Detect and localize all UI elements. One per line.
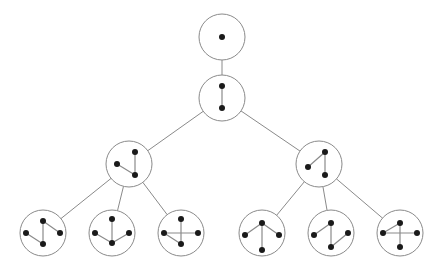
graph-vertex [114, 161, 120, 167]
graph-vertex [109, 240, 115, 246]
tree-edge-n4-n10 [337, 179, 383, 218]
tree-node-n3 [106, 141, 152, 187]
graph-vertex [219, 34, 225, 40]
tree-edge-n4-n8 [277, 182, 305, 216]
tree-edge-n2-n3 [148, 111, 203, 150]
graph-vertex [195, 230, 201, 236]
tree-node-n10 [377, 210, 423, 256]
graph-vertex [380, 230, 386, 236]
tree-node-n1 [199, 14, 245, 60]
graph-vertex [132, 149, 138, 155]
graph-vertex [126, 230, 132, 236]
graph-vertex [178, 216, 184, 222]
tree-node-n7 [158, 210, 204, 256]
tree-node-n4 [296, 141, 342, 187]
graph-vertex [92, 230, 98, 236]
graph-vertex [322, 149, 328, 155]
graph-vertex [276, 232, 282, 238]
tree-node-n5 [20, 210, 66, 256]
graph-tree-diagram [0, 0, 443, 273]
graph-vertex [178, 241, 184, 247]
graph-vertex [345, 230, 351, 236]
graph-vertex [57, 230, 63, 236]
graph-vertex [305, 164, 311, 170]
graph-vertex [132, 172, 138, 178]
graph-vertex [322, 172, 328, 178]
graph-vertex [219, 83, 225, 89]
graph-vertex [328, 220, 334, 226]
tree-edge-n2-n4 [241, 111, 300, 151]
graph-vertex [328, 244, 334, 250]
graph-vertex [242, 232, 248, 238]
tree-node-n8 [239, 210, 285, 256]
graph-vertex [23, 230, 29, 236]
graph-vertex [109, 216, 115, 222]
tree-node-n9 [308, 210, 354, 256]
tree-node-n6 [89, 210, 135, 256]
graph-vertex [40, 241, 46, 247]
node-circle [106, 141, 152, 187]
node-circle [296, 141, 342, 187]
tree-edge-n3-n6 [118, 186, 124, 210]
graph-vertex [219, 105, 225, 111]
tree-nodes [20, 14, 423, 256]
graph-vertex [397, 220, 403, 226]
graph-vertex [161, 230, 167, 236]
tree-edge-n4-n9 [323, 187, 327, 211]
graph-vertex [414, 230, 420, 236]
graph-vertex [259, 247, 265, 253]
graph-vertex [397, 244, 403, 250]
tree-edge-n3-n7 [143, 182, 167, 214]
graph-vertex [259, 220, 265, 226]
graph-vertex [311, 232, 317, 238]
graph-vertex [40, 218, 46, 224]
tree-node-n2 [199, 75, 245, 121]
